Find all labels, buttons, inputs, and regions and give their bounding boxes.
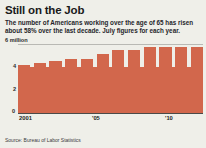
bar-2008[interactable] [128, 50, 140, 113]
bar-2003[interactable] [49, 61, 61, 114]
source-note: Source: Bureau of Labor Statistics [5, 137, 81, 143]
bar-2009[interactable] [144, 47, 156, 113]
x-axis-line [18, 113, 203, 114]
plot-canvas: 4 2 [18, 44, 203, 113]
x-tick-label-10: '10 [165, 115, 173, 122]
x-tick-label-05: '05 [92, 115, 100, 122]
chart-figure: Still on the Job The number of Americans… [0, 0, 206, 148]
x-tick-label-2001: 2001 [19, 115, 32, 122]
gridline-6 [18, 44, 203, 45]
plot-area: 6 million 4 2 [5, 37, 203, 129]
bar-2001[interactable] [18, 65, 30, 113]
bar-series [18, 67, 203, 114]
y-axis-unit-label: 6 million [5, 37, 28, 43]
page-title: Still on the Job [5, 4, 202, 17]
bar-2010[interactable] [159, 47, 171, 113]
x-axis-labels: 2001 '05 '10 [18, 115, 203, 124]
bar-2012[interactable] [191, 47, 203, 114]
bar-2005[interactable] [81, 59, 93, 114]
bar-2011[interactable] [175, 47, 187, 114]
y-tick-label-4: 4 [13, 63, 16, 69]
bar-2006[interactable] [97, 54, 109, 113]
y-tick-label-0: 0 [12, 108, 15, 114]
y-tick-label-2: 2 [13, 86, 16, 92]
bar-2004[interactable] [65, 59, 77, 114]
chart-subtitle: The number of Americans working over the… [5, 19, 201, 35]
bar-2007[interactable] [112, 50, 124, 114]
bar-2002[interactable] [34, 63, 46, 113]
